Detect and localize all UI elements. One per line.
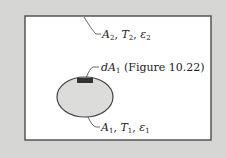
element-patch <box>77 78 93 83</box>
body-label: A1, T1, ε1 <box>100 121 150 135</box>
radiation-enclosure-diagram: A2, T2, ε2 dA1 (Figure 10.22) A1, T1, ε1 <box>0 0 226 158</box>
enclosure-label: A2, T2, ε2 <box>101 28 151 42</box>
